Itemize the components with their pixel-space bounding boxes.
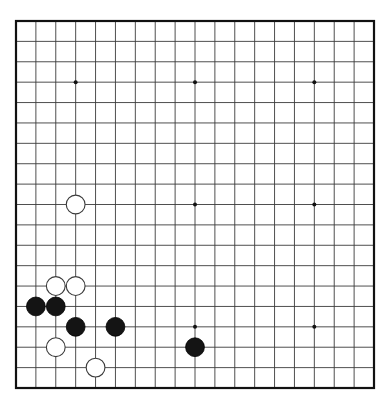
star-point	[312, 203, 316, 207]
black-stone[interactable]	[46, 297, 65, 316]
black-stone[interactable]	[26, 297, 45, 316]
white-stone[interactable]	[46, 338, 65, 357]
white-stone[interactable]	[46, 277, 65, 296]
go-board-grid[interactable]	[0, 0, 392, 404]
white-stone[interactable]	[66, 195, 85, 214]
black-stone[interactable]	[186, 338, 205, 357]
black-stone[interactable]	[66, 317, 85, 336]
go-board-container[interactable]	[0, 0, 392, 404]
star-point	[312, 325, 316, 329]
white-stone[interactable]	[66, 277, 85, 296]
star-point	[193, 325, 197, 329]
star-point	[193, 80, 197, 84]
black-stone[interactable]	[106, 317, 125, 336]
white-stone[interactable]	[86, 358, 105, 377]
star-point	[74, 80, 78, 84]
star-point	[193, 203, 197, 207]
star-point	[312, 80, 316, 84]
